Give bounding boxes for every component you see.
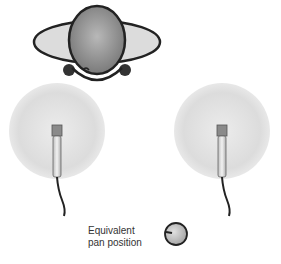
- right-microphone-icon: [174, 83, 270, 216]
- left-microphone-icon: [9, 83, 105, 216]
- label-line-1: Equivalent: [88, 225, 142, 237]
- listener-head-icon: [34, 6, 160, 80]
- label-line-2: pan position: [88, 237, 142, 249]
- pan-knob-icon: [165, 223, 187, 245]
- pan-position-label: Equivalent pan position: [88, 225, 142, 249]
